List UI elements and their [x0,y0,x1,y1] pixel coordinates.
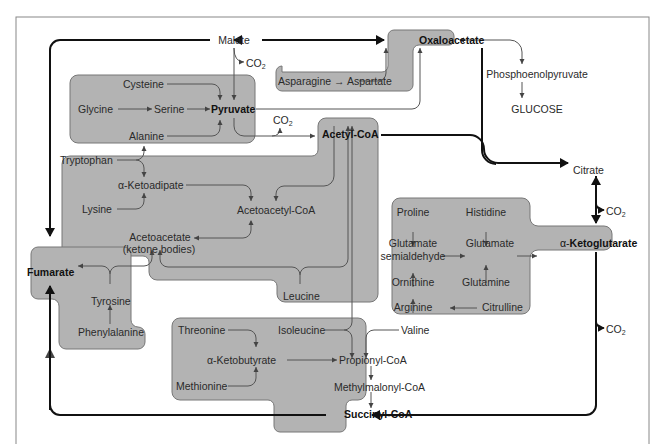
glutamate-semialdehyde-label-2: semialdehyde [381,250,446,262]
ketone-bodies-label: (ketone bodies) [123,243,195,255]
glutamate-label: Glutamate [466,237,514,249]
oxaloacetate-label: Oxaloacetate [419,34,484,46]
succinyl-coa-label: Succinyl-CoA [344,408,412,420]
phosphoenolpyruvate-label: Phosphoenolpyruvate [486,68,588,80]
glycine-label: Glycine [78,103,113,115]
histidine-label: Histidine [466,206,506,218]
co2-label-malate: CO2 [246,57,266,73]
pathway-graphics [0,0,667,444]
lysine-label: Lysine [82,203,112,215]
propionyl-coa-label: Propionyl-CoA [339,354,407,366]
tryptophan-label: Tryptophan [60,154,113,166]
phenylalanine-label: Phenylalanine [78,326,144,338]
acetyl-coa-label: Acetyl-CoA [322,128,379,140]
isoleucine-label: Isoleucine [278,324,325,336]
threonine-label: Threonine [178,324,225,336]
leucine-label: Leucine [283,290,320,302]
metabolic-pathway-diagram: Malate CO2 Oxaloacetate Citrate CO2 α-Ke… [0,0,667,444]
methionine-label: Methionine [176,380,227,392]
ornithine-label: Ornithine [392,276,435,288]
alanine-label: Alanine [129,130,164,142]
acetyl-coa-to-citrate-arrow [381,135,568,163]
fumarate-label: Fumarate [27,266,74,278]
malate-label: Malate [218,34,250,46]
co2-label-ketoglutarate: CO2 [606,323,626,339]
co2-label-pyruvate: CO2 [273,114,293,130]
pyruvate-label: Pyruvate [211,103,255,115]
acetoacetyl-coa-label: Acetoacetyl-CoA [237,204,315,216]
proline-label: Proline [397,206,430,218]
glucose-label: GLUCOSE [511,103,562,115]
valine-label: Valine [401,324,429,336]
co2-label-citrate: CO2 [606,205,626,221]
methylmalonyl-coa-label: Methylmalonyl-CoA [334,381,425,393]
citrulline-label: Citrulline [482,301,523,313]
alpha-ketobutyrate-label: α-Ketobutyrate [207,354,276,366]
acetoacetate-label: Acetoacetate [129,231,190,243]
cysteine-label: Cysteine [123,78,164,90]
serine-label: Serine [154,103,184,115]
glutamine-label: Glutamine [462,276,510,288]
alpha-ketoglutarate-label: α-Ketoglutarate [560,237,637,249]
tyrosine-label: Tyrosine [91,295,131,307]
citrate-label: Citrate [573,164,604,176]
alpha-ketoadipate-label: α-Ketoadipate [118,179,184,191]
glutamate-semialdehyde-label-1: Glutamate [389,237,437,249]
arginine-label: Arginine [394,301,433,313]
asparagine-label: Asparagine → Aspartate [278,75,392,87]
